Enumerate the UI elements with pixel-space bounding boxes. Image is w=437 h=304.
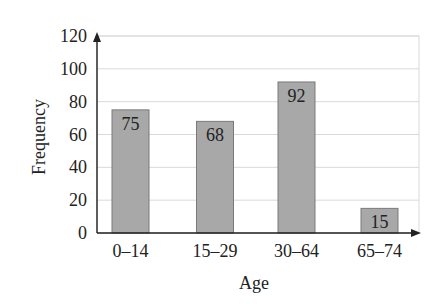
y-tick-labels: 020406080100120	[60, 26, 87, 243]
y-tick-label: 0	[78, 223, 87, 243]
y-tick-label: 60	[69, 125, 87, 145]
x-tick-labels: 0–1415–2930–6465–74	[113, 241, 403, 261]
x-tick-label: 0–14	[113, 241, 149, 261]
bar-value-label: 68	[206, 125, 224, 145]
x-tick-label: 65–74	[357, 241, 402, 261]
bar-value-label: 75	[122, 114, 140, 134]
y-tick-label: 40	[69, 157, 87, 177]
x-tick-label: 30–64	[274, 241, 319, 261]
bar-value-label: 92	[288, 86, 306, 106]
y-tick-label: 100	[60, 59, 87, 79]
x-axis-label: Age	[239, 273, 269, 293]
y-axis-arrow-icon	[93, 32, 101, 42]
y-tick-label: 120	[60, 26, 87, 46]
y-axis-label: Frequency	[29, 99, 49, 175]
x-tick-label: 15–29	[193, 241, 238, 261]
bars: 75689215	[112, 82, 398, 233]
bar-value-label: 15	[371, 212, 389, 232]
y-tick-label: 20	[69, 190, 87, 210]
y-tick-label: 80	[69, 92, 87, 112]
bar-chart: 75689215 020406080100120 0–1415–2930–646…	[0, 0, 437, 304]
